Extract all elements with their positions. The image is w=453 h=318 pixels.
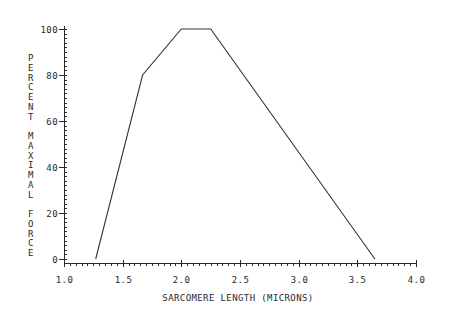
y-axis-title-letter: M xyxy=(28,170,34,180)
y-tick-label: 80 xyxy=(46,71,58,81)
x-tick-label: 3.0 xyxy=(291,275,308,285)
y-axis-title-letter: P xyxy=(28,53,34,63)
x-tick-label: 2.0 xyxy=(173,275,190,285)
y-axis-title-letter: E xyxy=(28,63,34,73)
y-tick-label: 100 xyxy=(41,25,58,35)
y-axis-title-letter: R xyxy=(28,73,34,83)
length-tension-chart: PERCENTMAXIMALFORCE 020406080100 1.01.52… xyxy=(0,0,453,318)
x-axis-title: SARCOMERE LENGTH (MICRONS) xyxy=(162,293,313,303)
y-axis-title-letter: F xyxy=(28,209,34,219)
x-tick-label: 3.5 xyxy=(349,275,366,285)
y-tick-label: 60 xyxy=(46,117,58,127)
chart-background xyxy=(0,0,453,318)
y-tick-label: 0 xyxy=(52,255,58,265)
y-axis-title-letter: E xyxy=(28,248,34,258)
y-axis-title-letter: O xyxy=(28,219,34,229)
y-axis-title-letter: M xyxy=(28,131,34,141)
x-tick-label: 2.5 xyxy=(232,275,249,285)
y-axis-title-letter: L xyxy=(28,190,34,200)
x-tick-label: 1.5 xyxy=(115,275,132,285)
y-axis-title-letter: E xyxy=(28,92,34,102)
y-axis-title-letter: A xyxy=(28,180,34,190)
y-axis-title-letter: A xyxy=(28,141,34,151)
y-tick-label: 40 xyxy=(46,163,58,173)
y-axis-title-letter: X xyxy=(28,151,34,161)
y-axis-title-letter: R xyxy=(28,229,34,239)
y-axis-title-letter: C xyxy=(28,82,34,92)
x-tick-label: 4.0 xyxy=(408,275,425,285)
y-axis-title-letter: N xyxy=(28,102,34,112)
x-tick-label: 1.0 xyxy=(56,275,73,285)
y-axis-title-letter: C xyxy=(28,238,34,248)
y-axis-title-letter: I xyxy=(28,160,34,170)
y-tick-label: 20 xyxy=(46,209,58,219)
y-axis-title: PERCENTMAXIMALFORCE xyxy=(28,53,34,258)
y-axis-title-letter: T xyxy=(28,112,34,122)
